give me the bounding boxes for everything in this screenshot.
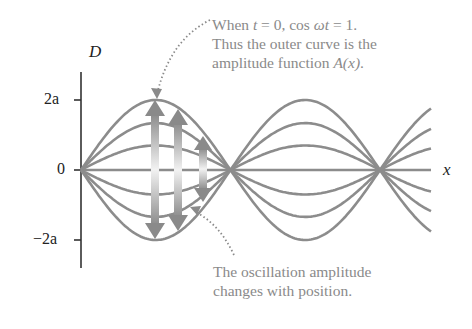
annotation-top-line2: Thus the outer curve is the [212,34,377,53]
annotation-top-line1: When t = 0, cos ωt = 1. [212,15,377,34]
annotation-top: When t = 0, cos ωt = 1. Thus the outer c… [212,15,377,72]
wave-curves [81,100,431,240]
x-axis-label: x [443,160,451,180]
annotation-bottom-line1: The oscillation amplitude [213,262,371,281]
tick-label-2a: 2a [44,90,59,108]
tick-label-text: −2a [33,230,57,247]
oscillation-arrows [145,100,212,239]
leader-line-bottom [196,212,234,255]
annotation-bottom: The oscillation amplitude changes with p… [213,262,371,300]
annotation-bottom-line2: changes with position. [213,281,371,300]
leader-arrowhead-top [151,88,162,99]
leader-line-top [157,20,210,94]
tick-label-text: 2a [44,90,59,107]
tick-label-0: 0 [57,160,65,178]
tick-label-text: 0 [57,160,65,177]
annotation-top-line3: amplitude function A(x). [212,53,377,72]
y-axis [74,72,81,268]
y-axis-label: D [89,42,101,62]
tick-label-minus-2a: −2a [33,230,57,248]
